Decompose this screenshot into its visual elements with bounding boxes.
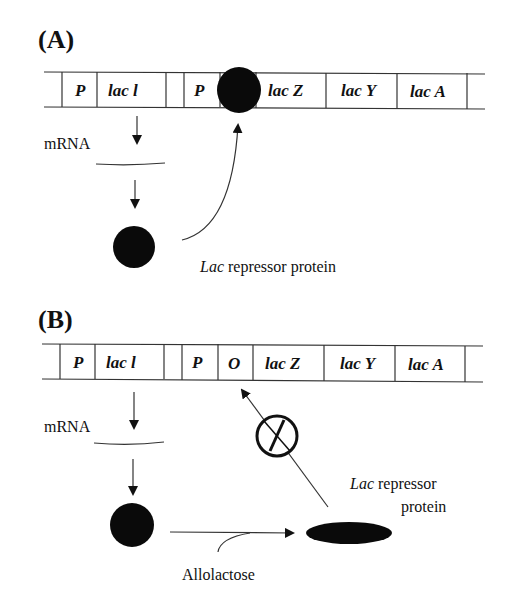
- repressor-label-b-line1: Lac repressor: [349, 475, 437, 493]
- panel-a: (A) P lac l P lac Z lac Y lac A mRNA La: [38, 25, 485, 276]
- lac-z-a: lac Z: [268, 81, 303, 100]
- no-binding-icon: [257, 416, 297, 456]
- lac-a-a: lac A: [410, 82, 446, 101]
- panel-b: (B) P lac l P O lac Z lac Y lac A mRNA: [38, 305, 483, 583]
- panel-a-label: (A): [38, 25, 74, 54]
- promoter-i-a: P: [74, 81, 86, 100]
- mrna-label-a: mRNA: [44, 135, 91, 152]
- lac-y-b: lac Y: [340, 354, 377, 373]
- lac-i-b: lac l: [106, 353, 136, 372]
- binding-arrow-a: [182, 125, 238, 240]
- mrna-label-b: mRNA: [44, 418, 91, 435]
- promoter-a: P: [193, 81, 205, 100]
- allolactose-label: Allolactose: [182, 566, 255, 583]
- lac-i-a: lac l: [108, 81, 138, 100]
- gene-strip-a: P lac l P lac Z lac Y lac A: [44, 72, 485, 109]
- mrna-strand-a: [96, 163, 165, 165]
- panel-b-label: (B): [38, 305, 73, 334]
- lac-z-b: lac Z: [265, 354, 300, 373]
- mrna-strand-b: [94, 442, 164, 444]
- repressor-protein-a: [113, 226, 155, 268]
- lac-y-a: lac Y: [341, 81, 378, 100]
- operator-b: O: [228, 354, 240, 373]
- inactive-repressor-b: [306, 522, 392, 544]
- repressor-label-b-line2: protein: [401, 498, 446, 516]
- gene-strip-b: P lac l P O lac Z lac Y lac A: [42, 344, 483, 382]
- allolactose-pointer: [218, 533, 250, 552]
- repressor-label-a: Lac repressor protein: [199, 258, 336, 276]
- lac-operon-diagram: (A) P lac l P lac Z lac Y lac A mRNA La: [0, 0, 505, 616]
- promoter-b: P: [191, 353, 203, 372]
- repressor-protein-b: [110, 503, 154, 547]
- promoter-i-b: P: [72, 353, 84, 372]
- lac-a-b: lac A: [408, 355, 444, 374]
- repressor-bound-operator: [217, 67, 261, 113]
- inducer-arrow-b: [170, 532, 293, 533]
